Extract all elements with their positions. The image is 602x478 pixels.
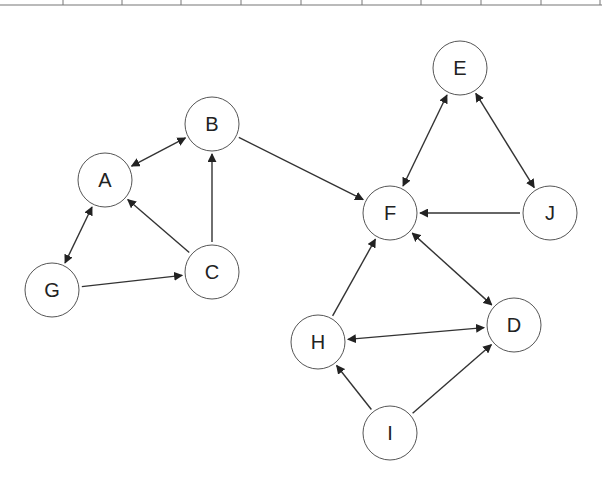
node-label: F	[384, 202, 396, 224]
table-fragment	[0, 0, 602, 5]
edge-a-g	[65, 207, 92, 263]
node-j: J	[523, 186, 577, 240]
edge-i-h	[337, 366, 372, 410]
node-f: F	[363, 186, 417, 240]
node-h: H	[291, 315, 345, 369]
node-label: B	[205, 113, 218, 135]
edge-e-j	[476, 93, 534, 187]
edge-h-d	[348, 328, 484, 340]
node-label: J	[545, 202, 555, 224]
node-label: A	[98, 169, 112, 191]
node-label: D	[507, 314, 521, 336]
node-b: B	[185, 97, 239, 151]
node-a: A	[78, 153, 132, 207]
edge-a-b	[132, 138, 186, 166]
edge-b-f	[239, 137, 363, 199]
node-g: G	[25, 263, 79, 317]
node-d: D	[487, 298, 541, 352]
nodes: ABCGEFJHDI	[25, 41, 577, 460]
node-label: H	[311, 331, 325, 353]
edge-i-d	[413, 345, 492, 414]
edges	[65, 93, 534, 413]
graph-diagram: ABCGEFJHDI	[0, 0, 602, 478]
node-label: I	[387, 422, 393, 444]
node-e: E	[433, 41, 487, 95]
node-c: C	[185, 245, 239, 299]
edge-f-d	[412, 233, 491, 305]
node-i: I	[363, 406, 417, 460]
edge-h-f	[333, 239, 376, 316]
edge-e-f	[403, 95, 447, 186]
node-label: C	[205, 261, 219, 283]
edge-g-c	[82, 275, 182, 286]
node-label: E	[453, 57, 466, 79]
edge-c-a	[128, 200, 190, 253]
node-label: G	[44, 279, 60, 301]
